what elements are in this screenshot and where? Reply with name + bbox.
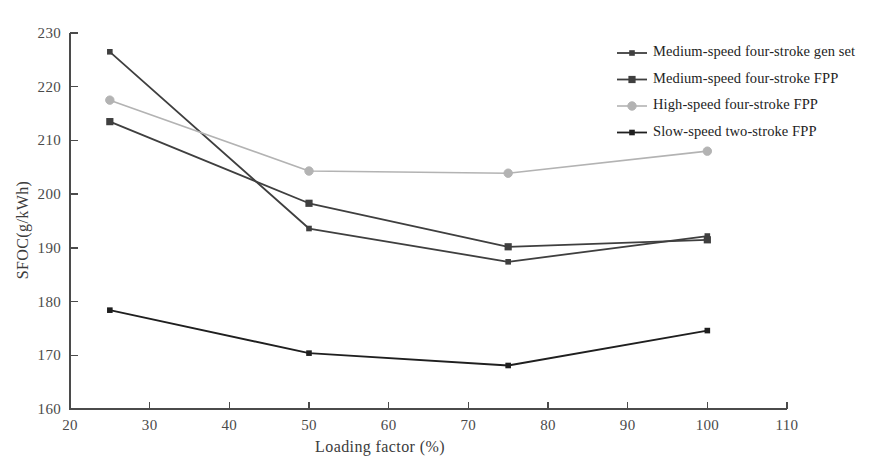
data-point-marker (505, 259, 511, 265)
legend-item-label: Slow-speed two-stroke FPP (653, 123, 817, 139)
y-tick-label: 210 (38, 132, 61, 148)
data-point-marker (305, 200, 312, 207)
x-tick-label: 50 (301, 417, 317, 433)
data-series (106, 118, 711, 250)
data-point-marker (628, 76, 635, 83)
x-tick-label: 80 (540, 417, 556, 433)
series-line (110, 100, 708, 173)
y-tick-label: 180 (38, 294, 61, 310)
x-tick-label: 110 (776, 417, 799, 433)
x-tick-label: 20 (62, 417, 78, 433)
data-series (106, 96, 712, 177)
chart-legend: Medium-speed four-stroke gen setMedium-s… (617, 43, 855, 139)
legend-item[interactable]: Slow-speed two-stroke FPP (617, 123, 817, 139)
series-line (110, 52, 708, 262)
data-point-marker (629, 50, 635, 56)
axis-frame (70, 33, 787, 409)
line-chart-canvas: 2030405060708090100110 16017018019020021… (0, 0, 894, 468)
data-point-marker (504, 169, 512, 177)
data-point-marker (106, 96, 114, 104)
x-tick-label: 30 (142, 417, 158, 433)
y-tick-label: 170 (38, 347, 61, 363)
x-tick-label: 100 (696, 417, 719, 433)
series-line (110, 310, 708, 365)
data-point-marker (107, 49, 113, 55)
y-axis-title: SFOC(g/kWh) (14, 181, 32, 280)
y-tick-label: 190 (38, 240, 61, 256)
x-axis-tick-labels: 2030405060708090100110 (62, 417, 798, 433)
legend-item[interactable]: High-speed four-stroke FPP (617, 96, 818, 112)
legend-item[interactable]: Medium-speed four-stroke gen set (617, 43, 855, 59)
data-point-marker (505, 243, 512, 250)
data-point-marker (107, 307, 113, 313)
data-point-marker (306, 350, 312, 356)
x-tick-label: 70 (461, 417, 477, 433)
data-point-marker (106, 118, 113, 125)
legend-item-label: Medium-speed four-stroke FPP (653, 70, 838, 86)
data-series-group (106, 49, 712, 368)
legend-item-label: High-speed four-stroke FPP (653, 96, 818, 112)
data-point-marker (505, 363, 511, 369)
legend-item-label: Medium-speed four-stroke gen set (653, 43, 855, 59)
data-point-marker (305, 167, 313, 175)
y-tick-label: 220 (38, 79, 61, 95)
y-tick-label: 230 (38, 25, 61, 41)
x-tick-label: 40 (222, 417, 238, 433)
chart-figure: 2030405060708090100110 16017018019020021… (0, 0, 894, 468)
y-tick-label: 160 (38, 401, 61, 417)
series-line (110, 122, 708, 247)
y-axis-ticks (70, 33, 78, 409)
data-point-marker (629, 130, 635, 136)
x-tick-label: 60 (381, 417, 397, 433)
data-point-marker (704, 236, 711, 243)
data-point-marker (703, 147, 711, 155)
data-point-marker (628, 102, 636, 110)
legend-item[interactable]: Medium-speed four-stroke FPP (617, 70, 838, 86)
y-axis-tick-labels: 160170180190200210220230 (38, 25, 61, 417)
x-axis-ticks (70, 402, 787, 409)
y-tick-label: 200 (38, 186, 61, 202)
axes-group: 2030405060708090100110 16017018019020021… (38, 25, 799, 433)
data-series (107, 307, 710, 368)
data-point-marker (705, 328, 711, 334)
x-axis-title: Loading factor (%) (315, 438, 445, 456)
data-point-marker (306, 226, 312, 232)
x-tick-label: 90 (620, 417, 636, 433)
